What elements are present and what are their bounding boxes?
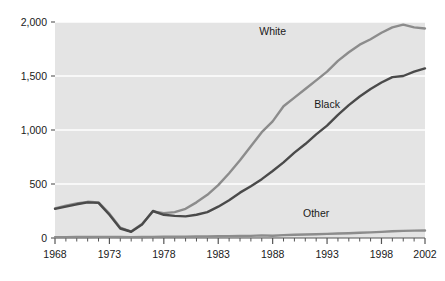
x-axis-tick-label: 1983	[207, 248, 231, 260]
series-label-white: White	[259, 25, 286, 37]
x-axis-tick-label: 1993	[315, 248, 339, 260]
x-axis-tick-label: 2002	[413, 248, 437, 260]
y-axis-tick-label: 1,000	[21, 124, 47, 136]
x-axis-tick-label: 1978	[152, 248, 176, 260]
y-axis-tick-label: 2,000	[21, 16, 47, 28]
y-axis-tick-label: 1,500	[21, 70, 47, 82]
chart-figure: 05001,0001,5002,000 19681973197819831988…	[0, 0, 445, 281]
series-label-other: Other	[303, 207, 330, 219]
x-axis-tick-label: 1973	[98, 248, 122, 260]
y-axis-tick-label: 0	[41, 232, 47, 244]
series-label-black: Black	[314, 98, 340, 110]
x-axis-tick-label: 1968	[43, 248, 67, 260]
x-axis-tick-label: 1988	[261, 248, 285, 260]
y-axis-tick-label: 500	[29, 178, 47, 190]
x-axis-tick-label: 1998	[370, 248, 394, 260]
line-chart: 05001,0001,5002,000 19681973197819831988…	[0, 0, 445, 281]
